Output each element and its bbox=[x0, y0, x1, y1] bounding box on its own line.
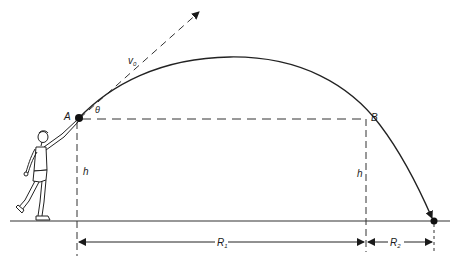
label-velocity-sub: 0 bbox=[133, 61, 137, 67]
ball-landed bbox=[431, 218, 438, 225]
label-b: B bbox=[371, 112, 378, 123]
trajectory-curve bbox=[78, 57, 432, 218]
label-a: A bbox=[63, 111, 71, 122]
label-r1-sub: 1 bbox=[224, 243, 227, 249]
label-r1-main: R bbox=[217, 237, 224, 248]
thrower-figure bbox=[16, 120, 78, 220]
label-r2: R2 bbox=[390, 237, 401, 249]
label-r2-sub: 2 bbox=[396, 243, 401, 249]
initial-velocity-arrow bbox=[80, 12, 199, 118]
label-r1: R1 bbox=[217, 237, 228, 249]
label-r2-main: R bbox=[390, 237, 397, 248]
label-velocity: v0 bbox=[128, 55, 137, 67]
label-h-left: h bbox=[83, 166, 89, 177]
label-h-right: h bbox=[357, 168, 363, 179]
projectile-diagram: A B θ v0 h h R1 R2 bbox=[0, 0, 457, 259]
label-theta: θ bbox=[95, 105, 100, 115]
